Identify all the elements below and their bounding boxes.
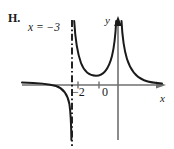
curve-right-branch (122, 21, 163, 83)
curve-left-branch (22, 83, 71, 141)
curve-middle-branch (74, 21, 116, 76)
graph-canvas (0, 0, 174, 149)
graph-figure: H. x = −3 y x −2 0 (0, 0, 174, 149)
x-axis (22, 81, 166, 88)
